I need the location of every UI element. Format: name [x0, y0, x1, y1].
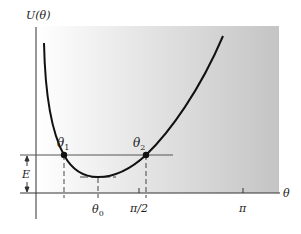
- potential-energy-diagram: E θ1 θ2 θ0 π/2 π U(θ) θ: [0, 0, 301, 234]
- energy-label: E: [21, 168, 30, 181]
- tick-label-theta0: θ0: [92, 203, 104, 218]
- theta1-point: [61, 152, 67, 158]
- tick-label-pi: π: [238, 202, 247, 215]
- tick-label-pi-half: π/2: [129, 202, 148, 215]
- theta2-point: [143, 152, 149, 158]
- x-axis-label: θ: [283, 187, 290, 200]
- y-axis-label: U(θ): [26, 9, 50, 22]
